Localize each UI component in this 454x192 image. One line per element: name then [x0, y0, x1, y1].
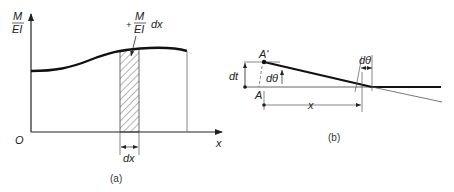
caption-b: (b) — [328, 132, 340, 143]
dtheta-right-label: dθ — [359, 54, 371, 66]
dx-label: dx — [123, 152, 135, 164]
y-axis-label-num: M — [13, 10, 23, 22]
hatched-strip — [120, 49, 139, 133]
tangent-left — [264, 62, 372, 87]
strip-label-den: EI — [134, 23, 144, 35]
panel-a: M EI + M EI dx O x dx (a) — [12, 10, 222, 184]
dt-label: dt — [229, 70, 239, 82]
moment-curve — [31, 48, 187, 71]
dashed-vertical — [259, 66, 262, 87]
x-axis-label: x — [215, 137, 222, 149]
figure: M EI + M EI dx O x dx (a) — [0, 0, 454, 192]
a-label: A — [254, 89, 262, 101]
strip-label-sign: + — [126, 20, 131, 30]
origin-label: O — [15, 134, 24, 146]
strip-label-suffix: dx — [151, 18, 163, 30]
caption-a: (a) — [110, 173, 122, 184]
tangent-extension — [372, 87, 442, 102]
y-axis-label-den: EI — [12, 23, 22, 35]
x-label: x — [307, 99, 314, 111]
point-a-prime — [262, 60, 266, 64]
panel-b: dt A' A dθ x dθ (b) — [229, 48, 442, 143]
strip-label-num: M — [135, 10, 145, 22]
dtheta-left-label: dθ — [266, 72, 278, 84]
a-prime-label: A' — [258, 48, 269, 60]
